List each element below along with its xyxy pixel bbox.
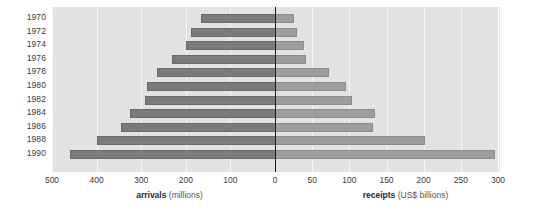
- tick-arrivals-300: 300: [134, 175, 148, 185]
- bar-receipts-1988: [275, 136, 425, 145]
- bar-row: [52, 41, 500, 50]
- right-axis-caption-units: (US$ billions): [395, 190, 448, 200]
- bar-arrivals-1974: [186, 41, 275, 50]
- tick-receipts-200: 200: [417, 175, 431, 185]
- tick-arrivals-200: 200: [179, 175, 193, 185]
- tick-receipts-300: 300: [491, 175, 505, 185]
- bar-row: [52, 55, 500, 64]
- bar-receipts-1980: [275, 82, 346, 91]
- bar-arrivals-1970: [201, 14, 275, 23]
- year-label-1970: 1970: [0, 12, 46, 22]
- bar-arrivals-1978: [157, 68, 275, 77]
- right-axis-caption-bold: receipts: [363, 190, 396, 200]
- bar-receipts-1970: [275, 14, 294, 23]
- bar-receipts-1972: [275, 28, 297, 37]
- bar-arrivals-1976: [172, 55, 275, 64]
- bar-row: [52, 96, 500, 105]
- bar-row: [52, 109, 500, 118]
- tick-arrivals-100: 100: [223, 175, 237, 185]
- left-axis-caption: arrivals (millions): [136, 190, 203, 200]
- left-axis-caption-units: (millions): [166, 190, 202, 200]
- bar-receipts-1978: [275, 68, 329, 77]
- bar-row: [52, 28, 500, 37]
- year-label-1984: 1984: [0, 107, 46, 117]
- year-label-1990: 1990: [0, 148, 46, 158]
- bar-row: [52, 68, 500, 77]
- tourism-diverging-bar-chart: 1970197219741976197819801982198419861988…: [0, 0, 535, 210]
- bar-receipts-1990: [275, 150, 495, 159]
- bar-arrivals-1990: [70, 150, 275, 159]
- bar-receipts-1974: [275, 41, 304, 50]
- bar-row: [52, 136, 500, 145]
- bar-receipts-1982: [275, 96, 352, 105]
- tick-arrivals-500: 500: [45, 175, 59, 185]
- bar-arrivals-1982: [145, 96, 275, 105]
- bar-arrivals-1984: [130, 109, 275, 118]
- bar-receipts-1986: [275, 123, 373, 132]
- year-label-1974: 1974: [0, 39, 46, 49]
- plot-area: [52, 7, 500, 172]
- tick-receipts-100: 100: [342, 175, 356, 185]
- bar-row: [52, 123, 500, 132]
- tick-arrivals-400: 400: [90, 175, 104, 185]
- year-label-1978: 1978: [0, 66, 46, 76]
- zero-axis-line: [275, 7, 276, 172]
- bar-arrivals-1972: [191, 28, 275, 37]
- bar-row: [52, 82, 500, 91]
- year-label-1976: 1976: [0, 53, 46, 63]
- bar-row: [52, 14, 500, 23]
- bar-arrivals-1980: [147, 82, 275, 91]
- tick-receipts-0: 0: [273, 175, 278, 185]
- bar-arrivals-1986: [121, 123, 275, 132]
- year-label-1986: 1986: [0, 121, 46, 131]
- tick-receipts-50: 50: [307, 175, 316, 185]
- year-label-1988: 1988: [0, 134, 46, 144]
- year-label-1982: 1982: [0, 94, 46, 104]
- tick-receipts-150: 150: [379, 175, 393, 185]
- bar-row: [52, 150, 500, 159]
- bar-receipts-1984: [275, 109, 375, 118]
- bar-receipts-1976: [275, 55, 306, 64]
- year-label-1972: 1972: [0, 26, 46, 36]
- bar-arrivals-1988: [97, 136, 275, 145]
- year-label-1980: 1980: [0, 80, 46, 90]
- left-axis-caption-bold: arrivals: [136, 190, 166, 200]
- right-axis-caption: receipts (US$ billions): [363, 190, 449, 200]
- tick-receipts-250: 250: [454, 175, 468, 185]
